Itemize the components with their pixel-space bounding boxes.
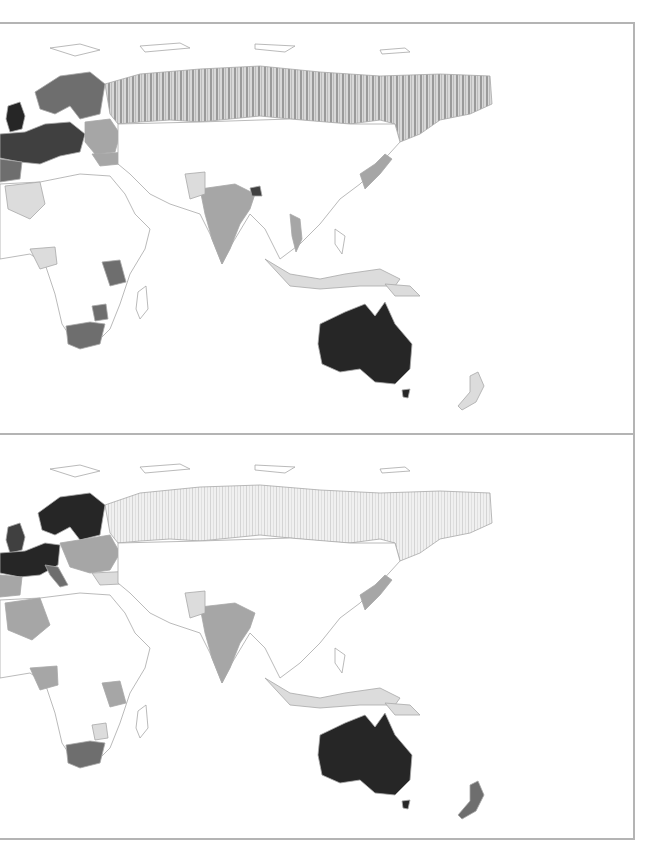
scandinavia: [35, 72, 105, 119]
eastern-europe: [85, 119, 120, 154]
indonesia: [265, 259, 400, 289]
world-map-bottom: [0, 435, 635, 840]
tasmania: [402, 389, 410, 398]
nigeria: [30, 666, 58, 690]
south-africa: [66, 741, 105, 768]
philippines: [335, 229, 345, 254]
south-africa: [66, 322, 105, 349]
world-map-top: [0, 24, 635, 435]
new-zealand: [458, 372, 484, 410]
united-kingdom: [6, 523, 25, 553]
philippines: [335, 648, 345, 673]
scandinavia: [38, 493, 105, 540]
australia: [318, 713, 412, 795]
zimbabwe: [92, 304, 108, 321]
tasmania: [402, 800, 410, 809]
indonesia: [265, 678, 400, 708]
iberia: [0, 575, 22, 597]
new-zealand: [458, 781, 484, 819]
asia-mainland: [118, 538, 400, 683]
map-panel-bottom: [0, 433, 635, 840]
australia: [318, 302, 412, 384]
zimbabwe: [92, 723, 108, 740]
papua-new-guinea: [385, 284, 420, 296]
bangladesh: [250, 186, 262, 196]
arctic-islands: [50, 43, 410, 56]
united-kingdom: [6, 102, 25, 132]
madagascar: [136, 705, 148, 738]
map-panel-top: [0, 22, 635, 435]
eastern-europe: [60, 535, 120, 573]
arctic-islands: [50, 464, 410, 477]
india: [200, 184, 255, 264]
iberia: [0, 159, 22, 182]
india: [200, 603, 255, 683]
madagascar: [136, 286, 148, 319]
papua-new-guinea: [385, 703, 420, 715]
italy: [45, 565, 68, 587]
